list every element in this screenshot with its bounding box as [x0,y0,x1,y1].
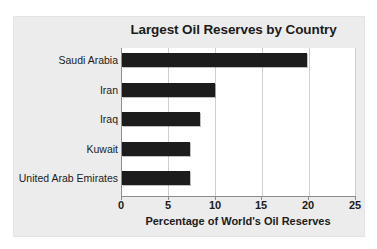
gridline-15 [262,48,263,196]
x-tick-label-25: 25 [340,199,370,211]
category-labels: Saudi Arabia Iran Iraq Kuwait United Ara… [4,48,118,196]
chart-title: Largest Oil Reserves by Country [0,22,377,37]
x-tick-label-20: 20 [293,199,323,211]
plot-area [121,48,356,196]
x-tick-labels: 0 5 10 15 20 25 [0,199,377,215]
x-tick-label-0: 0 [106,199,136,211]
x-tick-label-15: 15 [246,199,276,211]
category-label-united-arab-emirates: United Arab Emirates [6,172,118,184]
x-axis-title: Percentage of World's Oil Reserves [121,215,355,227]
category-label-kuwait: Kuwait [6,143,118,155]
bar-saudi-arabia[interactable] [122,53,307,67]
x-axis-line [121,196,356,197]
bar-iran[interactable] [122,83,215,97]
category-label-saudi-arabia: Saudi Arabia [6,54,118,66]
x-tick-label-10: 10 [200,199,230,211]
category-label-iran: Iran [6,84,118,96]
chart-title-text: Largest Oil Reserves by Country [130,22,336,37]
x-tick-label-5: 5 [153,199,183,211]
gridline-25 [355,48,356,196]
category-label-iraq: Iraq [6,113,118,125]
bar-united-arab-emirates[interactable] [122,171,190,185]
bar-kuwait[interactable] [122,142,190,156]
chart-figure: Largest Oil Reserves by Country Saudi Ar… [0,0,377,249]
gridline-20 [309,48,310,196]
bar-iraq[interactable] [122,112,200,126]
gridline-10 [215,48,216,196]
